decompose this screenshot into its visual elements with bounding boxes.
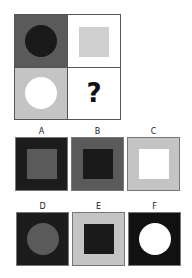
grid-cell-top-right <box>68 15 120 68</box>
square-shape <box>84 224 114 254</box>
white-circle-shape <box>25 77 57 109</box>
option-label-c: C <box>127 127 180 136</box>
grid-cell-top-left <box>15 15 68 68</box>
option-label-e: E <box>72 202 125 211</box>
square-shape <box>27 149 57 179</box>
square-shape <box>83 149 113 179</box>
puzzle-grid: ? <box>14 14 121 120</box>
circle-shape <box>139 223 171 255</box>
grid-cell-missing: ? <box>68 68 120 119</box>
option-label-b: B <box>71 127 124 136</box>
option-d[interactable] <box>16 212 69 266</box>
grid-cell-bottom-left <box>15 68 68 119</box>
question-mark: ? <box>68 78 120 108</box>
dark-circle-shape <box>25 25 57 57</box>
light-square-shape <box>79 27 109 57</box>
option-c[interactable] <box>127 137 180 191</box>
circle-shape <box>27 223 59 255</box>
option-a[interactable] <box>15 137 68 191</box>
option-b[interactable] <box>71 137 124 191</box>
option-label-d: D <box>16 202 69 211</box>
option-label-f: F <box>128 202 181 211</box>
option-f[interactable] <box>128 212 181 266</box>
option-e[interactable] <box>72 212 125 266</box>
square-shape <box>139 149 169 179</box>
option-label-a: A <box>15 127 68 136</box>
